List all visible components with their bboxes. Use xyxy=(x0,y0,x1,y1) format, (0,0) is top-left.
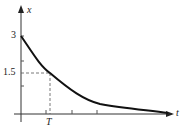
y-axis-arrow-icon xyxy=(18,5,24,13)
decay-curve xyxy=(21,36,168,113)
x-tick-T: T xyxy=(46,117,52,127)
ticks xyxy=(21,36,97,114)
y-tick-3: 3 xyxy=(11,30,16,40)
y-axis-label: x xyxy=(27,5,31,15)
guide-lines xyxy=(21,73,50,114)
plot xyxy=(0,0,183,129)
y-tick-1-5: 1.5 xyxy=(3,67,16,77)
x-axis-label: t xyxy=(176,108,179,118)
